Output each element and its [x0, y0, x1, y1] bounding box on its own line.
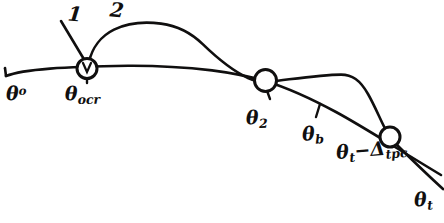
- label-theta-t: θt: [413, 189, 433, 209]
- label-curve-1: 1: [67, 3, 83, 24]
- label-theta-ocr: θocr: [65, 84, 100, 104]
- label-theta-2: θ2: [246, 107, 268, 127]
- label-theta-b: θb: [301, 123, 324, 143]
- curve-2-branch: [89, 23, 443, 189]
- sketch-figure: θo θocr 1 2 θ2 θb θt−Δtpc θt: [0, 0, 444, 223]
- marker-theta-ocr: [77, 59, 97, 79]
- label-theta-t-minus-delta-tpc: θt−Δtpc: [335, 137, 407, 162]
- sketch-canvas: [0, 0, 444, 223]
- label-theta-0: θo: [6, 84, 27, 104]
- tick-theta-b: [316, 104, 320, 117]
- label-curve-2: 2: [109, 0, 125, 21]
- leader-line-curve-1: [61, 21, 85, 61]
- marker-theta-2: [255, 70, 277, 92]
